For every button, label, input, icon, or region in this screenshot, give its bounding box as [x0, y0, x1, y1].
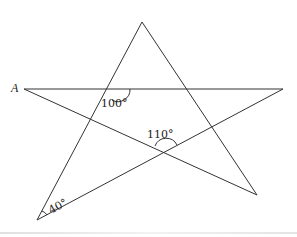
angle-label-40: 40° — [46, 196, 69, 217]
angle-arc-40 — [42, 211, 47, 215]
bottom-divider — [0, 232, 297, 234]
segment-bottom-left-right — [37, 89, 283, 220]
angle-label-100: 100° — [101, 97, 128, 110]
angle-label-110: 110° — [147, 128, 174, 141]
point-label-a: A — [10, 81, 19, 95]
segment-bottom-left-top — [37, 22, 142, 220]
pentagram-diagram: A 100° 110° 40° — [0, 0, 297, 237]
